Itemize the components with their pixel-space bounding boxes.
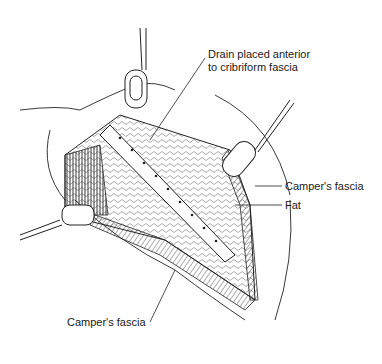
campers-fascia-bottom-label: Camper's fascia — [67, 316, 146, 329]
drain-label: Drain placed anterior to cribriform fasc… — [208, 48, 310, 74]
fat-label: Fat — [285, 199, 301, 212]
drain-label-line-1: Drain placed anterior — [208, 48, 310, 61]
campers-fascia-right-label: Camper's fascia — [285, 180, 364, 193]
drain-label-line-2: to cribriform fascia — [208, 61, 310, 74]
surgical-illustration: Drain placed anterior to cribriform fasc… — [0, 0, 382, 364]
